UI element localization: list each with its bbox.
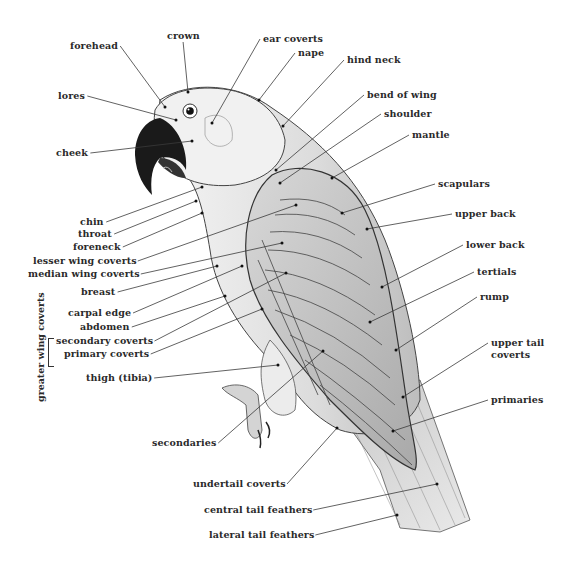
leader-dot-hind-neck	[282, 125, 285, 128]
leader-mantle	[332, 135, 409, 178]
label-cheek: cheek	[56, 147, 88, 158]
leader-dot-bend-of-wing	[275, 169, 278, 172]
label-lores: lores	[58, 90, 85, 101]
label-thigh: thigh (tibia)	[86, 372, 152, 383]
leader-dot-crown	[187, 91, 190, 94]
leader-dot-median-wing-coverts	[281, 242, 284, 245]
label-abdomen: abdomen	[80, 321, 129, 332]
leader-throat	[114, 201, 196, 234]
leader-dot-central-tail-feathers	[436, 483, 439, 486]
label-central-tail-feathers: central tail feathers	[204, 504, 312, 515]
label-tertials: tertials	[477, 266, 516, 277]
label-throat: throat	[78, 228, 112, 239]
leader-dot-forehead	[164, 106, 167, 109]
label-upper-tail-coverts-2: coverts	[491, 349, 530, 360]
leader-dot-nape	[258, 99, 261, 102]
leader-dot-foreneck	[201, 212, 204, 215]
leader-dot-chin	[201, 186, 204, 189]
group-label-greater-wing-coverts: greater wing coverts	[35, 292, 46, 402]
leader-lateral-tail-feathers	[315, 515, 397, 535]
leader-dot-secondary-coverts	[285, 272, 288, 275]
leader-dot-undertail-coverts	[336, 427, 339, 430]
leader-dot-lateral-tail-feathers	[396, 514, 399, 517]
leader-dot-carpal-edge	[241, 265, 244, 268]
label-scapulars: scapulars	[438, 178, 490, 189]
leader-dot-lesser-wing-coverts	[295, 204, 298, 207]
parrot-anatomy-diagram: crownforeheadear covertsnapehind necklor…	[0, 0, 563, 570]
leader-dot-rump	[395, 349, 398, 352]
leader-dot-cheek	[191, 140, 194, 143]
leader-dot-tertials	[369, 321, 372, 324]
leader-dot-thigh	[277, 364, 280, 367]
leader-dot-lores	[175, 119, 178, 122]
leader-crown	[183, 42, 188, 92]
leader-dot-throat	[195, 200, 198, 203]
label-nape: nape	[298, 47, 324, 58]
label-forehead: forehead	[70, 40, 118, 51]
leader-upper-back	[367, 214, 452, 229]
leader-dot-breast	[216, 265, 219, 268]
label-median-wing-coverts: median wing coverts	[28, 268, 140, 279]
label-ear-coverts: ear coverts	[263, 33, 323, 44]
leader-dot-lower-back	[381, 286, 384, 289]
label-primaries: primaries	[491, 394, 543, 405]
label-primary-coverts: primary coverts	[64, 348, 149, 359]
label-chin: chin	[80, 216, 104, 227]
leader-dot-shoulder	[279, 182, 282, 185]
leader-forehead	[120, 46, 165, 107]
label-lesser-wing-coverts: lesser wing coverts	[33, 255, 137, 266]
label-crown: crown	[167, 30, 200, 41]
leader-dot-abdomen	[224, 295, 227, 298]
leader-hind-neck	[283, 60, 344, 126]
leader-undertail-coverts	[287, 428, 337, 484]
label-upper-tail-coverts: upper tail	[491, 337, 544, 348]
leader-nape	[259, 53, 295, 100]
label-secondaries: secondaries	[152, 437, 216, 448]
leader-dot-mantle	[331, 177, 334, 180]
label-undertail-coverts: undertail coverts	[193, 478, 286, 489]
label-lateral-tail-feathers: lateral tail feathers	[209, 529, 314, 540]
label-breast: breast	[81, 286, 115, 297]
leader-dot-secondaries	[322, 350, 325, 353]
label-carpal-edge: carpal edge	[68, 307, 131, 318]
label-foreneck: foreneck	[73, 241, 121, 252]
label-shoulder: shoulder	[384, 108, 432, 119]
leader-foreneck	[123, 213, 202, 247]
label-mantle: mantle	[412, 129, 450, 140]
leader-dot-primary-coverts	[261, 308, 264, 311]
label-rump: rump	[480, 291, 509, 302]
leader-dot-upper-tail-coverts	[402, 396, 405, 399]
group-bracket	[48, 338, 54, 367]
leader-dot-ear-coverts	[211, 122, 214, 125]
label-lower-back: lower back	[466, 239, 525, 250]
leader-dot-scapulars	[341, 212, 344, 215]
leader-dot-primaries	[392, 430, 395, 433]
label-bend-of-wing: bend of wing	[367, 89, 437, 100]
leader-dot-upper-back	[366, 228, 369, 231]
label-secondary-coverts: secondary coverts	[56, 335, 153, 346]
leader-thigh	[154, 365, 278, 378]
label-upper-back: upper back	[455, 208, 516, 219]
label-hind-neck: hind neck	[347, 54, 401, 65]
